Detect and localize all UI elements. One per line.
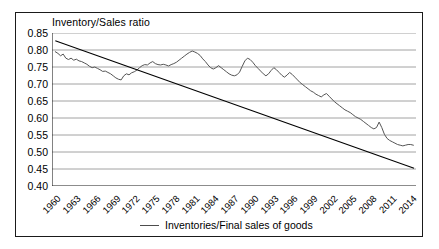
y-axis-tick-label: 0.75	[28, 61, 48, 73]
y-axis-tick-label: 0.55	[28, 129, 48, 141]
chart-figure: Inventory/Sales ratio 0.400.450.500.550.…	[0, 0, 439, 249]
x-axis-tick-label: 1966	[80, 193, 103, 216]
x-axis-tick-label: 1978	[159, 193, 182, 216]
y-axis-tick-label: 0.50	[28, 146, 48, 158]
x-axis-tick-label: 1984	[198, 193, 221, 216]
x-axis-tick-label: 2002	[317, 193, 340, 216]
x-axis-tick-label: 1963	[60, 193, 83, 216]
y-axis-tick-label: 0.40	[28, 180, 48, 192]
x-axis-tick-label: 1975	[139, 193, 162, 216]
x-axis-tick-label: 1996	[277, 193, 300, 216]
y-axis-tick-labels: 0.400.450.500.550.600.650.700.750.800.85	[16, 33, 48, 186]
y-axis-tick-label: 0.65	[28, 95, 48, 107]
gridlines	[52, 33, 416, 169]
x-axis-tick-label: 2008	[356, 193, 379, 216]
y-axis-tick-label: 0.80	[28, 44, 48, 56]
x-axis-tick-label: 1981	[179, 193, 202, 216]
x-axis-tick-label: 1990	[238, 193, 261, 216]
y-axis-tick-label: 0.60	[28, 112, 48, 124]
x-axis-tick-label: 1969	[100, 193, 123, 216]
x-axis-tick-label: 2011	[377, 193, 399, 215]
y-axis-tick-label: 0.70	[28, 78, 48, 90]
y-axis-tick-label: 0.45	[28, 163, 48, 175]
plot-area	[52, 33, 416, 186]
chart-plot-svg	[52, 33, 416, 186]
series-line-inventories-final-sales	[55, 51, 413, 146]
legend-line-swatch	[140, 225, 159, 226]
x-axis-tick-label: 1993	[258, 193, 281, 216]
x-axis-tick-label: 2005	[337, 193, 360, 216]
x-axis-tick-label: 1972	[119, 193, 142, 216]
axis-lines	[52, 33, 416, 186]
x-axis-tick-label: 1999	[297, 193, 320, 216]
chart-legend: Inventories/Final sales of goods	[140, 219, 313, 231]
legend-label: Inventories/Final sales of goods	[165, 219, 313, 231]
x-axis-tick-label: 1987	[218, 193, 241, 216]
trend-line	[55, 41, 414, 169]
y-axis-tick-label: 0.85	[28, 27, 48, 39]
x-axis-tick-labels: 1960196319661969197219751978198119841987…	[52, 187, 422, 221]
chart-title: Inventory/Sales ratio	[52, 16, 150, 28]
x-axis-tick-label: 2014	[396, 193, 419, 216]
